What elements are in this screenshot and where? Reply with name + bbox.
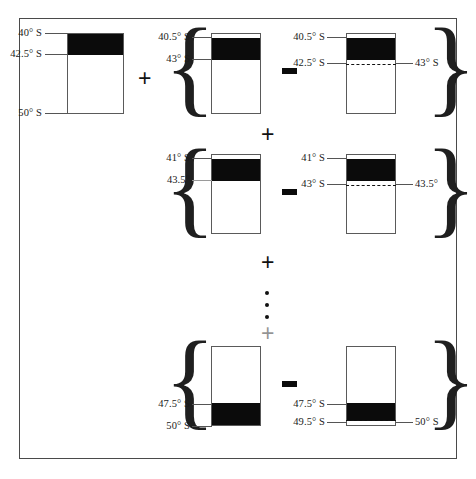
label-row3-term2-top: 47.5° S	[273, 399, 325, 410]
band-row3-term1	[212, 403, 260, 425]
tick-row3-term2-bot	[327, 422, 347, 423]
label-row1-term1-top: 40° S	[0, 28, 42, 39]
label-row2-term1-mid: 43.5°	[142, 175, 190, 186]
dashed-row2-term2	[346, 185, 396, 186]
bar-row2-term1	[211, 154, 261, 234]
tick-row2-term2-right	[396, 184, 413, 185]
bar-row1-term2	[211, 33, 261, 114]
label-row1-term2-top: 40.5° S	[138, 32, 190, 43]
ellipsis-dot-2	[265, 303, 269, 307]
tick-row3-term2-right	[396, 422, 413, 423]
tick-row1-term3-mid	[327, 63, 347, 64]
tick-row1-term2-top	[192, 37, 212, 38]
label-row2-term2-mid: 43° S	[277, 179, 325, 190]
tick-row1-term3-top	[327, 37, 347, 38]
dashed-row3-term2	[346, 420, 396, 421]
label-row3-term1-top: 47.5° S	[138, 399, 190, 410]
operator-between-row1-row2: +	[261, 123, 274, 146]
bar-row3-term2	[346, 346, 396, 426]
figure-frame: 40° S 42.5° S 50° S + { 40.5° S 43° S 40…	[19, 18, 457, 459]
brace-open-row3: {	[164, 334, 216, 427]
operator-below-ellipsis: +	[261, 322, 274, 345]
tick-row1-term2-mid	[192, 59, 212, 60]
operator-row2-minus	[282, 189, 297, 195]
label-row2-term1-top: 41° S	[142, 153, 190, 164]
bar-row1-term1	[67, 33, 124, 114]
band-row1-term3	[347, 38, 395, 60]
ellipsis-dot-3	[265, 315, 269, 319]
label-row1-term3-top: 40.5° S	[273, 32, 325, 43]
operator-row3-minus	[282, 381, 297, 387]
brace-close-row3: }	[425, 334, 476, 427]
operator-between-row2-ellipsis: +	[261, 251, 274, 274]
label-row1-term3-mid: 42.5° S	[273, 58, 325, 69]
figure-root: 40° S 42.5° S 50° S + { 40.5° S 43° S 40…	[0, 0, 476, 479]
tick-row1-term1-bot	[45, 113, 68, 114]
brace-close-row1: }	[425, 21, 476, 114]
tick-row1-term1-top	[45, 33, 68, 34]
band-row2-term2	[347, 159, 395, 181]
tick-row3-term1-top	[192, 404, 212, 405]
operator-row1-plus: +	[138, 67, 151, 90]
dashed-row1-term3	[346, 64, 396, 65]
brace-close-row2: }	[425, 142, 476, 235]
bar-row2-term2	[346, 154, 396, 234]
band-row1-term1	[68, 34, 123, 55]
label-row1-term1-bot: 50° S	[0, 108, 42, 119]
bar-row3-term1	[211, 346, 261, 426]
tick-row1-term3-right	[396, 63, 413, 64]
tick-row3-term2-top	[327, 404, 347, 405]
band-row1-term2	[212, 38, 260, 60]
label-row2-term2-top: 41° S	[277, 153, 325, 164]
label-row1-term1-mid: 42.5° S	[0, 49, 42, 60]
tick-row2-term1-top	[192, 158, 212, 159]
band-row2-term1	[212, 159, 260, 181]
tick-row2-term1-mid	[192, 180, 212, 181]
tick-row2-term2-top	[327, 158, 347, 159]
tick-row2-term2-mid	[327, 184, 347, 185]
bar-row1-term3	[346, 33, 396, 114]
band-row3-term2	[347, 403, 395, 421]
label-row3-term1-bot: 50° S	[138, 421, 190, 432]
label-row1-term2-mid: 43° S	[138, 54, 190, 65]
label-row3-term2-bot: 49.5° S	[273, 417, 325, 428]
tick-row3-term1-bot	[192, 426, 212, 427]
tick-row1-term1-mid	[45, 54, 68, 55]
operator-row1-minus	[282, 68, 297, 74]
ellipsis-dot-1	[265, 291, 269, 295]
